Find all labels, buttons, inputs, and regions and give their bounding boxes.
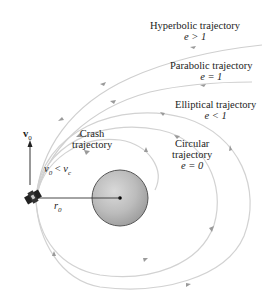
orbital-trajectory-diagram: Hyperbolic trajectory e > 1 Parabolic tr…: [0, 0, 269, 299]
satellite-icon: [23, 188, 43, 206]
velocity-label: v0: [23, 128, 32, 144]
trajectory-paths: [0, 0, 269, 299]
crash-condition-label: v0 < vc: [44, 163, 71, 179]
circular-label: Circular trajectory e = 0: [172, 138, 212, 171]
hyperbolic-label: Hyperbolic trajectory e > 1: [150, 20, 240, 42]
elliptical-label: Elliptical trajectory e < 1: [175, 99, 256, 121]
radius-label: r0: [54, 200, 62, 216]
parabolic-label: Parabolic trajectory e = 1: [170, 60, 253, 82]
crash-label: Crash trajectory: [72, 128, 112, 150]
